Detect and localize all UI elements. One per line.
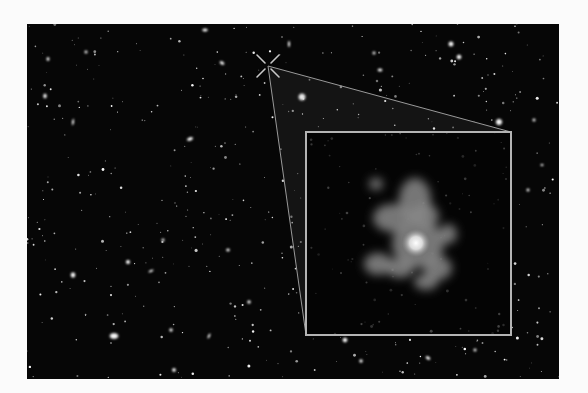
deep-field-canvas	[0, 0, 588, 393]
deep-field-image	[0, 0, 588, 393]
inset-zoom-panel	[306, 131, 511, 336]
galaxy-core	[402, 229, 430, 257]
